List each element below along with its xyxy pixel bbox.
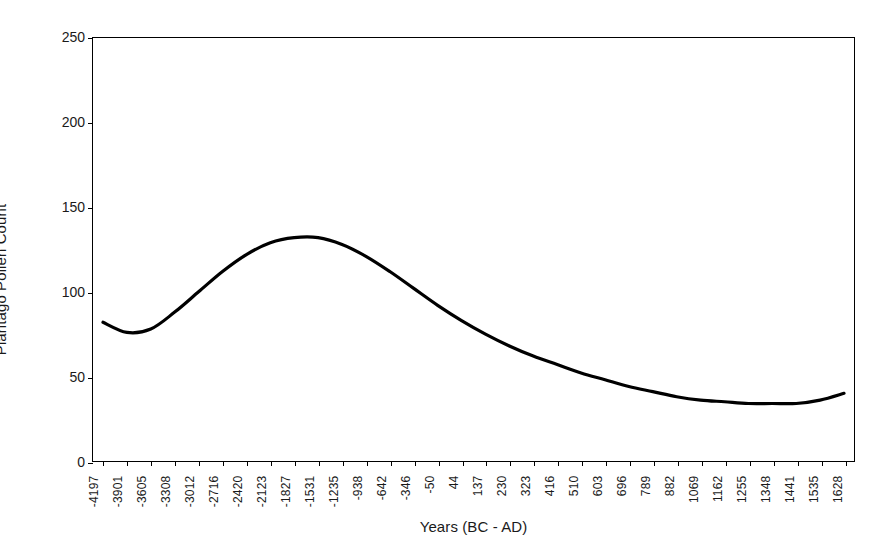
y-tick-mark (88, 123, 93, 124)
x-tick-label: 696 (616, 476, 629, 497)
x-tick-label: 603 (592, 476, 605, 497)
x-tick-label: 1628 (832, 476, 845, 504)
x-axis-tick-labels: -4197-3901-3605-3308-3012-2716-2420-2123… (92, 462, 855, 522)
x-tick-label: 230 (496, 476, 509, 497)
x-tick-label: -4197 (89, 476, 102, 508)
plot-area (92, 37, 855, 462)
x-tick-label: -50 (424, 476, 437, 494)
x-tick-label: 1535 (808, 476, 821, 504)
y-tick-mark (88, 293, 93, 294)
chart-figure: Plantago Pollen Count 050100150200250 -4… (0, 0, 885, 559)
x-tick-label: 1441 (784, 476, 797, 504)
x-tick-label: 510 (568, 476, 581, 497)
pollen-count-line (103, 237, 844, 404)
x-tick-label: -2123 (256, 476, 269, 508)
data-curve (93, 38, 854, 461)
x-tick-label: 1162 (712, 476, 725, 503)
x-tick-label: 44 (448, 476, 461, 490)
x-tick-label: 1255 (736, 476, 749, 504)
x-tick-label: -3605 (136, 476, 149, 508)
x-tick-label: -938 (352, 476, 365, 501)
y-tick-label: 0 (36, 454, 92, 470)
x-tick-label: -1827 (280, 476, 293, 508)
x-tick-label: 137 (472, 476, 485, 497)
x-tick-label: -3308 (160, 476, 173, 508)
x-tick-label: 882 (664, 476, 677, 497)
y-axis-tick-labels: 050100150200250 (36, 0, 92, 559)
x-tick-label: 416 (544, 476, 557, 497)
x-tick-label: -3901 (112, 476, 125, 508)
x-tick-label: 1069 (688, 476, 701, 504)
x-tick-label: -1531 (304, 476, 317, 508)
x-axis-title: Years (BC - AD) (92, 518, 855, 535)
x-tick-label: 323 (520, 476, 533, 497)
x-tick-label: -642 (376, 476, 389, 501)
y-tick-label: 200 (36, 114, 92, 130)
y-tick-label: 250 (36, 29, 92, 45)
y-tick-mark (88, 208, 93, 209)
x-tick-label: -346 (400, 476, 413, 501)
y-tick-label: 150 (36, 199, 92, 215)
x-tick-label: 789 (640, 476, 653, 497)
x-tick-label: -2716 (208, 476, 221, 508)
y-tick-mark (88, 38, 93, 39)
x-tick-label: -2420 (232, 476, 245, 508)
x-tick-label: -1235 (328, 476, 341, 508)
x-tick-label: -3012 (184, 476, 197, 508)
y-tick-mark (88, 378, 93, 379)
x-tick-label: 1348 (760, 476, 773, 504)
y-tick-label: 50 (36, 369, 92, 385)
y-tick-label: 100 (36, 284, 92, 300)
